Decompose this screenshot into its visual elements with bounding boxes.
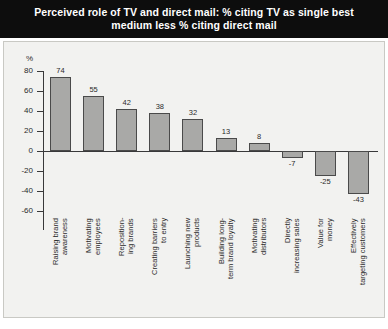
y-axis-tick-label: 0 [7,147,33,155]
y-axis-tick-label: 40 [7,107,33,115]
x-axis-category-label: Reposition- ing brands [117,218,136,313]
x-axis-category-label: Value for money [316,218,335,313]
bar-value-label: 8 [243,133,276,141]
bar-value-label: -25 [309,178,342,186]
x-axis-category-label: Effectively targeting customers [349,218,368,313]
chart-title-bar: Perceived role of TV and direct mail: % … [0,0,388,38]
y-axis-tick [37,111,44,112]
bar [315,151,336,176]
bar-value-label: -7 [276,160,309,168]
bar [182,119,203,151]
x-axis-category-label: Motivating distributors [250,218,269,313]
bar-value-label: 74 [44,67,77,75]
x-axis-category-label: Motivating employees [84,218,103,313]
bar-value-label: 32 [176,109,209,117]
bar [348,151,369,194]
x-axis-category-label: Building long- term brand loyalty [217,218,236,313]
bar-value-label: 38 [143,103,176,111]
bar [116,109,137,151]
bar-value-label: 42 [110,99,143,107]
chart-figure: Perceived role of TV and direct mail: % … [0,0,388,329]
bar-value-label: -43 [342,196,375,204]
x-axis-category-label: Raising brand awareness [51,218,70,313]
y-axis-tick [37,171,44,172]
bar [282,151,303,158]
y-axis-tick [37,211,44,212]
y-axis-unit-label: % [26,54,33,63]
y-axis-tick [37,131,44,132]
y-axis-tick [37,91,44,92]
y-axis-tick-label: 60 [7,87,33,95]
bar [216,138,237,151]
y-axis-tick-label: 20 [7,127,33,135]
bar-value-label: 55 [77,86,110,94]
y-axis-tick-label: -40 [7,187,33,195]
plot-area: % 806040200-20-40-60 7455423832138-7-25-… [4,42,386,319]
chart-plot-panel: % 806040200-20-40-60 7455423832138-7-25-… [3,41,385,318]
y-axis-tick-label: 80 [7,67,33,75]
y-axis-tick [37,71,44,72]
bar [83,96,104,151]
x-axis-category-label: Creating barriers to entry [150,218,169,313]
y-axis-tick-label: -60 [7,207,33,215]
y-axis-tick [37,151,44,152]
bar-value-label: 13 [210,128,243,136]
y-axis-tick [37,191,44,192]
bar [149,113,170,151]
y-axis-tick-label: -20 [7,167,33,175]
page-title: Perceived role of TV and direct mail: % … [26,6,362,32]
bar [50,77,71,151]
x-axis-category-label: Launching new products [183,218,202,313]
x-axis-category-label: Directly increasing sales [283,218,302,313]
bar [249,143,270,151]
